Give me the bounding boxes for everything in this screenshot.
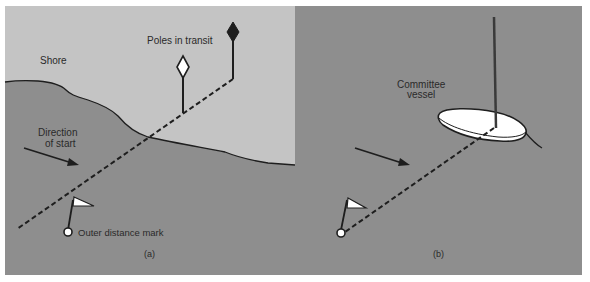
start-line-diagram: Shore Poles in transit Direction of star… — [0, 0, 590, 282]
label-direction-line1: Direction — [38, 127, 77, 138]
label-direction-line2: of start — [45, 138, 76, 149]
label-poles-in-transit: Poles in transit — [147, 35, 213, 46]
caption-b: (b) — [433, 249, 444, 259]
label-outer-distance-mark: Outer distance mark — [78, 227, 164, 238]
caption-a: (a) — [144, 249, 155, 259]
label-shore: Shore — [40, 55, 67, 66]
label-vessel: vessel — [407, 89, 435, 100]
